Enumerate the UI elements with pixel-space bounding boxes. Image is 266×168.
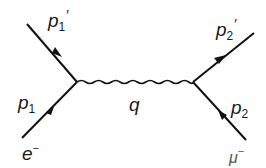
label-muon: μ− [229, 146, 244, 166]
label-electron: e− [22, 143, 39, 163]
label-p1: p1 [18, 93, 35, 115]
label-q: q [129, 95, 140, 114]
feynman-diagram: p1′ p1 e− q p2′ p2 μ− [0, 0, 266, 168]
label-p2-prime: p2′ [216, 17, 237, 42]
label-p1-prime: p1′ [48, 8, 69, 33]
photon-propagator [77, 81, 193, 84]
label-p2: p2 [231, 98, 248, 120]
arrow-icon [46, 104, 55, 115]
